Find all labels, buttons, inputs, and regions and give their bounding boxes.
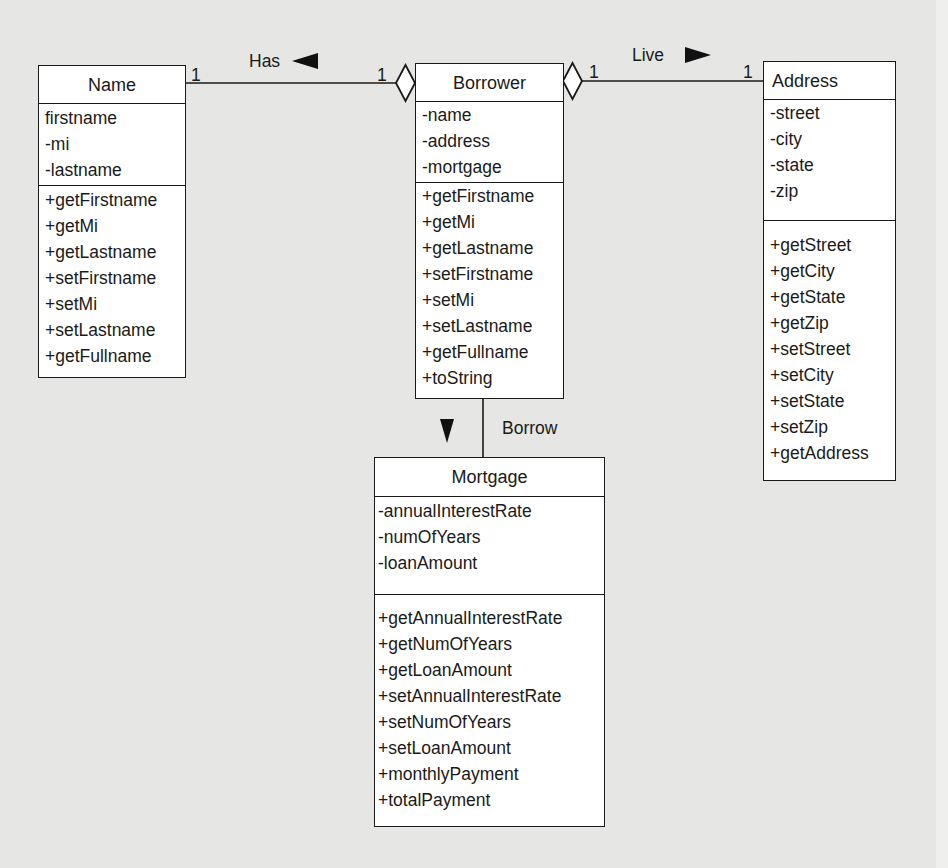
method: +totalPayment [378,787,604,813]
method: +setNumOfYears [378,709,604,735]
class-name-title: Name [39,66,185,104]
live-label: Live [632,45,664,65]
has-label: Has [249,51,280,71]
method: +getMi [45,213,185,239]
method: +toString [422,365,563,391]
method: +getState [770,284,895,310]
aggregation-diamond-right-icon [563,63,582,99]
method: +getAddress [770,440,895,466]
attribute: -loanAmount [378,550,604,576]
live-multiplicity-address: 1 [743,62,753,82]
attribute: -lastname [45,157,185,183]
class-borrower: Borrower -name -address -mortgage +getFi… [415,63,564,399]
method: +getFirstname [422,183,563,209]
attribute: -mortgage [422,154,563,180]
method: +setFirstname [422,261,563,287]
method: +getLoanAmount [378,657,604,683]
attribute: -name [422,102,563,128]
class-name-methods: +getFirstname +getMi +getLastname +setFi… [39,186,185,369]
aggregation-diamond-left-icon [396,65,415,101]
class-borrower-methods: +getFirstname +getMi +getLastname +setFi… [416,183,563,391]
method: +setCity [770,362,895,388]
class-address-methods: +getStreet +getCity +getState +getZip +s… [764,221,895,466]
attribute: -mi [45,131,185,157]
live-multiplicity-borrower: 1 [589,62,599,82]
method: +getCity [770,258,895,284]
has-multiplicity-borrower: 1 [377,65,387,85]
method: +getAnnualInterestRate [378,605,604,631]
method: +getFullname [422,339,563,365]
has-direction-arrow-icon [292,53,318,69]
class-address-attributes: -street -city -state -zip [764,100,895,221]
method: +getNumOfYears [378,631,604,657]
attribute: firstname [45,105,185,131]
method: +getStreet [770,232,895,258]
class-name: Name firstname -mi -lastname +getFirstna… [38,65,186,378]
attribute: -state [770,152,895,178]
borrow-label: Borrow [502,418,557,438]
has-multiplicity-name: 1 [191,65,201,85]
class-mortgage-title: Mortgage [375,458,604,497]
method: +setFirstname [45,265,185,291]
method: +monthlyPayment [378,761,604,787]
attribute: -city [770,126,895,152]
attribute: -address [422,128,563,154]
method: +setLoanAmount [378,735,604,761]
method: +getFirstname [45,187,185,213]
method: +getMi [422,209,563,235]
method: +getFullname [45,343,185,369]
class-borrower-title: Borrower [416,64,563,102]
attribute: -street [770,100,895,126]
attribute: -numOfYears [378,524,604,550]
method: +getLastname [422,235,563,261]
class-mortgage-methods: +getAnnualInterestRate +getNumOfYears +g… [375,595,604,813]
live-direction-arrow-icon [685,47,711,63]
class-address-title: Address [764,62,895,100]
class-mortgage-attributes: -annualInterestRate -numOfYears -loanAmo… [375,497,604,595]
method: +getZip [770,310,895,336]
method: +setStreet [770,336,895,362]
attribute: -zip [770,178,895,204]
attribute: -annualInterestRate [378,498,604,524]
borrow-direction-arrow-icon [440,419,454,443]
class-address: Address -street -city -state -zip +getSt… [763,61,896,481]
method: +setZip [770,414,895,440]
method: +setLastname [422,313,563,339]
method: +setState [770,388,895,414]
method: +setAnnualInterestRate [378,683,604,709]
method: +getLastname [45,239,185,265]
class-mortgage: Mortgage -annualInterestRate -numOfYears… [374,457,605,827]
method: +setLastname [45,317,185,343]
class-borrower-attributes: -name -address -mortgage [416,102,563,183]
class-name-attributes: firstname -mi -lastname [39,104,185,186]
method: +setMi [45,291,185,317]
method: +setMi [422,287,563,313]
